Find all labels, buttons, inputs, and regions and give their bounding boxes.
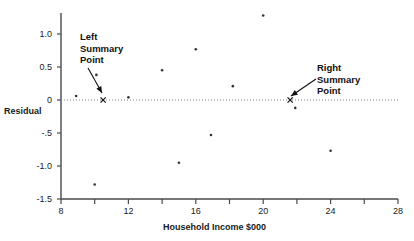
y-tick-label-4: -1.0 [14, 161, 52, 171]
x-tick-label-4: 16 [191, 206, 201, 216]
left-summary-annotation: LeftSummaryPoint [80, 31, 123, 66]
y-tick-label-0: 1.0 [14, 29, 52, 39]
chart-canvas [0, 0, 414, 241]
data-point-5 [178, 161, 181, 164]
data-point-1 [93, 183, 96, 186]
x-tick-label-10: 28 [393, 206, 403, 216]
left-summary-annotation-line-0: Left [80, 31, 123, 43]
data-point-6 [195, 48, 198, 51]
right-summary-annotation-line-0: Right [317, 62, 360, 74]
data-point-4 [161, 69, 164, 72]
data-point-11 [329, 150, 332, 153]
left-summary-point [101, 97, 106, 102]
y-tick-label-1: 0.5 [14, 62, 52, 72]
y-tick-label-5: -1.5 [14, 194, 52, 204]
y-axis-title: Residual [4, 106, 42, 116]
left-summary-annotation-line-1: Summary [80, 43, 123, 55]
x-axis-title: Household Income $000 [163, 222, 266, 232]
arrow-head [291, 90, 298, 96]
plot-area [0, 0, 414, 241]
x-tick-label-0: 8 [58, 206, 63, 216]
data-point-3 [127, 96, 130, 99]
data-point-9 [262, 14, 265, 17]
x-tick-label-8: 24 [326, 206, 336, 216]
data-point-0 [75, 95, 78, 98]
left-summary-annotation-line-2: Point [80, 54, 123, 66]
data-point-2 [95, 74, 98, 77]
residual-scatter-plot: 1.00.50-.5-1.0-1.581216202428LeftSummary… [0, 0, 414, 241]
y-tick-label-2: 0 [14, 95, 52, 105]
data-point-8 [232, 85, 235, 88]
right-summary-point [288, 97, 293, 102]
x-tick-label-6: 20 [258, 206, 268, 216]
right-summary-annotation-arrow [291, 79, 316, 96]
right-summary-annotation: RightSummaryPoint [317, 62, 360, 97]
left-summary-annotation-arrow [88, 68, 102, 93]
data-point-10 [294, 107, 297, 110]
right-summary-annotation-line-1: Summary [317, 74, 360, 86]
data-point-7 [210, 134, 213, 137]
y-tick-label-3: -.5 [14, 128, 52, 138]
x-tick-label-2: 12 [123, 206, 133, 216]
right-summary-annotation-line-2: Point [317, 85, 360, 97]
